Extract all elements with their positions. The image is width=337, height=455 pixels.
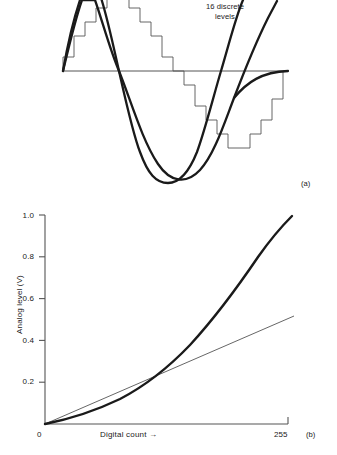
x-axis-title: Digital count → [100,430,157,439]
panel-a-plot-svg [0,0,337,205]
panel-b-plot-svg [0,205,337,455]
panel-a-caption: (a) [301,179,310,188]
x-axis-tick-label-0: 0 [37,430,41,439]
y-axis-tick-label-0-2: 0.2 [8,377,34,386]
annotation-16-discrete-levels: 16 discrete levels [185,2,265,22]
series-linear-line [45,316,294,424]
panel-a-sine-curve-visible [63,0,277,180]
annotation-line-1: 16 discrete [185,2,265,12]
panel-a-sampled-sine-chart: 16 discrete levels (a) [0,0,337,205]
annotation-line-2: levels [185,12,265,22]
figure-root: 16 discrete levels (a) Linear Compande [0,0,337,455]
panel-a-staircase-trace [63,0,288,148]
series-companded-curve [45,216,292,424]
x-axis-tick-label-255: 255 [274,430,287,439]
y-axis-tick-label-1-0: 1.0 [8,211,34,220]
y-axis-title: Analog level (V) [15,260,24,350]
panel-b-caption: (b) [306,430,315,439]
panel-b-companding-chart: Linear Companded [0,205,337,455]
